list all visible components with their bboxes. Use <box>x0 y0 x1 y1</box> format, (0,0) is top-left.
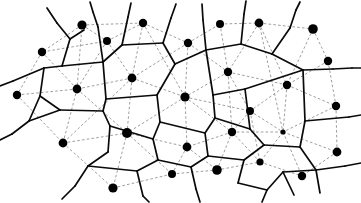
site-point <box>59 139 68 148</box>
site-point <box>228 128 236 136</box>
voronoi-figure-root <box>0 0 361 203</box>
site-point <box>212 165 222 175</box>
diagram-background <box>0 0 361 203</box>
site-point <box>13 91 21 99</box>
site-point <box>184 39 192 47</box>
site-point <box>280 129 285 134</box>
site-point <box>139 19 147 27</box>
site-point <box>183 143 192 152</box>
voronoi-edge <box>202 4 203 20</box>
site-point <box>246 107 254 115</box>
site-point <box>38 48 46 56</box>
site-point <box>255 19 264 28</box>
site-point <box>332 102 340 110</box>
site-point <box>128 74 137 83</box>
voronoi-edge <box>60 110 103 111</box>
site-point <box>73 85 82 94</box>
site-point <box>224 68 232 76</box>
site-point <box>77 20 86 29</box>
site-point <box>180 92 189 101</box>
site-point <box>298 172 306 180</box>
voronoi-delaunay-diagram <box>0 0 361 203</box>
site-point <box>324 57 332 65</box>
voronoi-edge <box>303 69 333 70</box>
site-point <box>308 24 318 34</box>
voronoi-edge <box>333 68 352 69</box>
site-point <box>122 128 132 138</box>
site-point <box>108 183 117 192</box>
site-point <box>216 20 224 28</box>
site-point <box>168 170 176 178</box>
site-point <box>333 148 342 157</box>
site-point <box>283 81 291 89</box>
site-point <box>256 158 263 165</box>
site-point <box>103 37 111 45</box>
